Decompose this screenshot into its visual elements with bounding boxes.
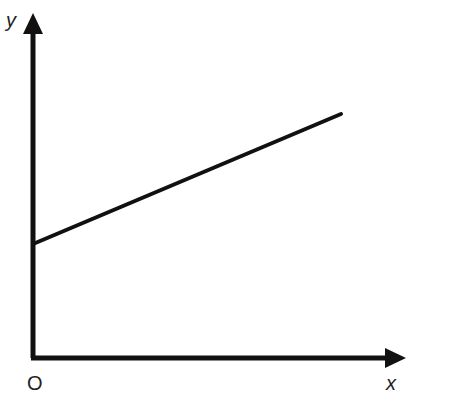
y-axis-label: y	[6, 10, 16, 30]
y-axis-arrow-icon	[23, 13, 43, 34]
origin-label: O	[27, 373, 43, 393]
graph-canvas	[0, 0, 453, 401]
graph-line	[33, 114, 341, 244]
x-axis-arrow-icon	[385, 348, 406, 368]
x-axis-label: x	[386, 373, 396, 393]
